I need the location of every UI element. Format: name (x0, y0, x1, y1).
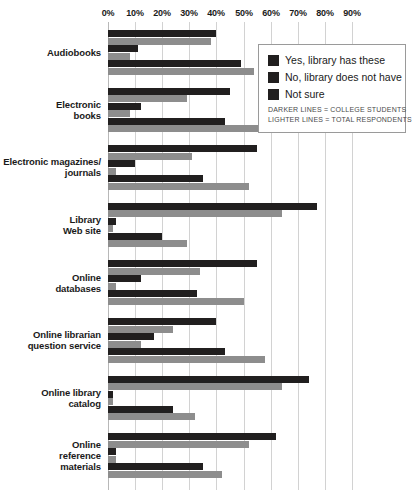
bar-yes-total (108, 268, 200, 275)
bar-not_sure-college (108, 118, 225, 125)
legend-item-label: Not sure (285, 88, 325, 100)
chart-category-group: Onlinedatabases (0, 260, 413, 305)
category-label-line: Electronic magazines/ (0, 156, 101, 167)
bar-not_sure-college (108, 406, 173, 413)
chart-legend: Yes, library has theseNo, library does n… (258, 44, 406, 133)
bar-yes-total (108, 441, 249, 448)
x-axis-tick-labels: 0%10%20%30%40%50%60%70%80%90% (0, 0, 413, 22)
bar-no-total (108, 341, 141, 348)
bar-yes-total (108, 38, 211, 45)
bar-yes-college (108, 318, 216, 325)
legend-item[interactable]: No, library does not have (268, 71, 397, 83)
legend-item[interactable]: Not sure (268, 88, 397, 100)
bar-no-college (108, 45, 138, 52)
category-label-line: Electronic (0, 99, 101, 110)
bar-no-total (108, 283, 116, 290)
x-tick-label: 0% (102, 8, 115, 18)
category-label-line: reference (0, 450, 101, 461)
bar-no-total (108, 53, 130, 60)
legend-swatch-icon (268, 72, 279, 83)
bar-yes-college (108, 203, 317, 210)
y-axis-category-label: Onlinedatabases (0, 272, 101, 294)
chart-category-group: Online librarycatalog (0, 376, 413, 421)
bar-not_sure-total (108, 298, 244, 305)
bar-chart: 0%10%20%30%40%50%60%70%80%90% Audiobooks… (0, 0, 413, 497)
category-label-line: Web site (0, 225, 101, 236)
bar-no-college (108, 275, 141, 282)
bar-no-college (108, 448, 116, 455)
bar-no-total (108, 225, 113, 232)
bar-no-total (108, 110, 130, 117)
bar-not_sure-total (108, 183, 249, 190)
bar-yes-total (108, 326, 173, 333)
y-axis-category-label: Online librarianquestion service (0, 329, 101, 351)
legend-item-label: No, library does not have (285, 71, 402, 83)
bar-not_sure-college (108, 175, 203, 182)
y-axis-category-label: Electronic magazines/journals (0, 156, 101, 178)
x-tick-label: 60% (262, 8, 279, 18)
bar-yes-total (108, 153, 192, 160)
y-axis-category-label: Online librarycatalog (0, 387, 101, 409)
legend-notes: DARKER LINES = COLLEGE STUDENTSLIGHTER L… (268, 105, 397, 125)
bar-yes-college (108, 260, 257, 267)
category-label-line: journals (0, 167, 101, 178)
chart-category-group: LibraryWeb site (0, 203, 413, 248)
bar-yes-college (108, 88, 230, 95)
bar-yes-total (108, 210, 282, 217)
bar-not_sure-college (108, 290, 197, 297)
category-label-line: Online library (0, 387, 101, 398)
bar-no-college (108, 218, 116, 225)
category-label-line: Online (0, 272, 101, 283)
bar-yes-college (108, 433, 276, 440)
bar-no-total (108, 398, 113, 405)
legend-item-label: Yes, library has these (285, 54, 385, 66)
x-tick-label: 20% (153, 8, 170, 18)
y-axis-category-label: LibraryWeb site (0, 214, 101, 236)
y-axis-category-label: Onlinereferencematerials (0, 439, 101, 472)
category-label-line: Audiobooks (0, 47, 101, 58)
y-axis-category-label: Audiobooks (0, 47, 101, 58)
category-label-line: databases (0, 283, 101, 294)
bar-not_sure-college (108, 348, 225, 355)
legend-swatch-icon (268, 55, 279, 66)
bar-no-total (108, 168, 116, 175)
bar-not_sure-total (108, 125, 268, 132)
bar-no-college (108, 103, 141, 110)
legend-note: DARKER LINES = COLLEGE STUDENTS (268, 105, 397, 115)
x-tick-label: 90% (343, 8, 360, 18)
bar-not_sure-college (108, 463, 203, 470)
category-label-line: Online (0, 439, 101, 450)
legend-items: Yes, library has theseNo, library does n… (268, 54, 397, 100)
bar-not_sure-total (108, 471, 222, 478)
legend-swatch-icon (268, 89, 279, 100)
bar-no-college (108, 333, 154, 340)
category-label-line: Online librarian (0, 329, 101, 340)
x-tick-label: 30% (180, 8, 197, 18)
bar-not_sure-total (108, 356, 265, 363)
category-label-line: materials (0, 461, 101, 472)
x-tick-label: 40% (207, 8, 224, 18)
bar-yes-total (108, 95, 187, 102)
bar-no-college (108, 391, 113, 398)
legend-note: LIGHTER LINES = TOTAL RESPONDENTS (268, 115, 397, 125)
legend-item[interactable]: Yes, library has these (268, 54, 397, 66)
x-tick-label: 10% (126, 8, 143, 18)
bar-yes-total (108, 383, 282, 390)
category-label-line: catalog (0, 398, 101, 409)
bar-not_sure-total (108, 68, 254, 75)
bar-not_sure-total (108, 413, 195, 420)
category-label-line: Library (0, 214, 101, 225)
bar-yes-college (108, 145, 257, 152)
bar-no-total (108, 456, 116, 463)
chart-category-group: Online librarianquestion service (0, 318, 413, 363)
chart-category-group: Electronic magazines/journals (0, 145, 413, 190)
y-axis-category-label: Electronicbooks (0, 99, 101, 121)
x-tick-label: 80% (316, 8, 333, 18)
bar-not_sure-college (108, 233, 162, 240)
category-label-line: question service (0, 340, 101, 351)
chart-category-group: Onlinereferencematerials (0, 433, 413, 478)
bar-yes-college (108, 30, 216, 37)
x-tick-label: 70% (289, 8, 306, 18)
x-tick-label: 50% (235, 8, 252, 18)
bar-not_sure-college (108, 60, 241, 67)
